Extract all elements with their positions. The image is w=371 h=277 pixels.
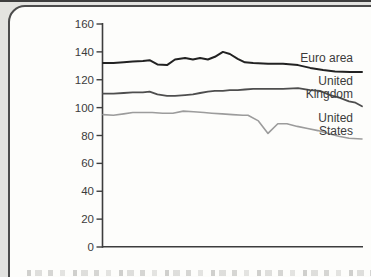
series-label-united-kingdom: United (318, 74, 353, 88)
y-tick-label: 160 (75, 18, 94, 30)
series-label-united-kingdom: Kingdom (306, 87, 353, 101)
series-label-united-states: States (319, 124, 353, 138)
y-tick-label: 120 (75, 74, 94, 86)
series-label-united-states: United (318, 111, 353, 125)
y-tick-label: 40 (81, 185, 94, 197)
y-tick-label: 20 (81, 213, 94, 225)
y-tick-label: 100 (75, 102, 94, 114)
y-tick-label: 60 (81, 157, 94, 169)
cropped-caption-text (27, 270, 371, 276)
series-label-euro-area: Euro area (300, 51, 353, 65)
y-tick-label: 0 (88, 241, 94, 253)
y-tick-label: 80 (81, 130, 94, 142)
y-tick-label: 140 (75, 46, 94, 58)
page-background: 160140120100806040200Euro areaUnitedKing… (0, 0, 371, 277)
line-chart: 160140120100806040200Euro areaUnitedKing… (0, 0, 371, 277)
